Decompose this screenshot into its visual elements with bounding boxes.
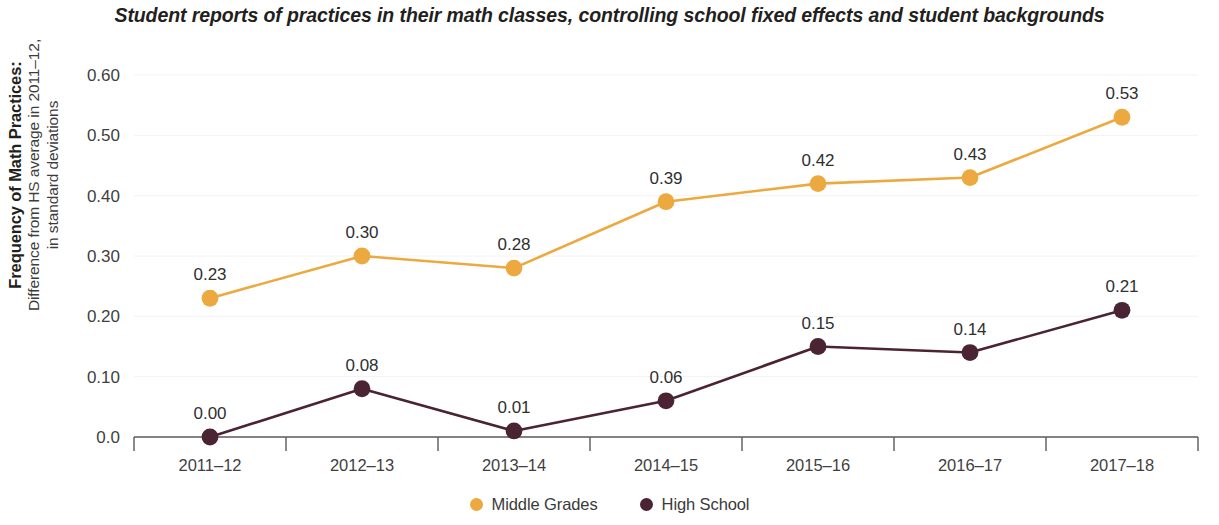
y-axis-tick-labels: 0.00.100.200.300.400.500.60 [87, 66, 120, 447]
x-axis-tick-label: 2012–13 [330, 456, 394, 474]
x-axis-tick-label: 2015–16 [786, 456, 850, 474]
data-point-marker[interactable] [354, 248, 371, 265]
y-axis-tick-label: 0.10 [87, 368, 120, 387]
data-point-marker[interactable] [1114, 109, 1131, 126]
x-axis-tick-label: 2016–17 [938, 456, 1002, 474]
data-point-label: 0.08 [345, 356, 378, 375]
data-point-marker[interactable] [1114, 302, 1131, 319]
data-point-marker[interactable] [202, 290, 219, 307]
data-point-label: 0.21 [1105, 277, 1138, 296]
legend-item[interactable]: Middle Grades [470, 495, 598, 514]
y-axis-tick-label: 0.40 [87, 187, 120, 206]
y-axis-tick-label: 0.50 [87, 126, 120, 145]
data-point-marker[interactable] [962, 169, 979, 186]
data-point-label: 0.39 [649, 169, 682, 188]
y-axis-tick-label: 0.0 [96, 428, 120, 447]
x-axis-tick-label: 2013–14 [482, 456, 546, 474]
data-point-marker[interactable] [962, 344, 979, 361]
x-axis-tick-label: 2017–18 [1090, 456, 1154, 474]
x-axis-tick-label: 2011–12 [178, 456, 241, 474]
data-point-label: 0.28 [497, 235, 530, 254]
chart-legend: Middle GradesHigh School [0, 495, 1219, 514]
data-point-label: 0.30 [345, 223, 378, 242]
data-point-marker[interactable] [506, 423, 523, 440]
y-axis-tick-label: 0.60 [87, 66, 120, 85]
data-point-marker[interactable] [658, 392, 675, 409]
legend-item[interactable]: High School [640, 495, 750, 514]
data-series [202, 109, 1131, 446]
line-chart-plot: 0.00.100.200.300.400.500.60 2011–122012–… [0, 0, 1219, 500]
data-point-label: 0.00 [193, 404, 226, 423]
data-point-marker[interactable] [810, 338, 827, 355]
legend-label: Middle Grades [492, 495, 598, 514]
x-axis-tick-label: 2014–15 [634, 456, 698, 474]
data-point-marker[interactable] [810, 175, 827, 192]
legend-swatch-icon [470, 498, 483, 511]
y-axis-tick-label: 0.30 [87, 247, 120, 266]
gridlines [134, 75, 1198, 377]
data-point-label: 0.01 [497, 398, 530, 417]
data-point-label: 0.14 [953, 320, 986, 339]
chart-page: Student reports of practices in their ma… [0, 0, 1219, 525]
axis-lines [134, 437, 1198, 451]
data-point-label: 0.06 [649, 368, 682, 387]
x-axis-tick-labels: 2011–122012–132013–142014–152015–162016–… [178, 456, 1154, 474]
data-point-label: 0.53 [1105, 84, 1138, 103]
data-point-label: 0.43 [953, 145, 986, 164]
data-point-label: 0.42 [801, 151, 834, 170]
data-point-marker[interactable] [354, 380, 371, 397]
data-point-label: 0.15 [801, 314, 834, 333]
legend-label: High School [662, 495, 750, 514]
data-point-marker[interactable] [202, 429, 219, 446]
data-point-label: 0.23 [193, 265, 226, 284]
data-point-marker[interactable] [506, 260, 523, 277]
y-axis-tick-label: 0.20 [87, 307, 120, 326]
data-point-marker[interactable] [658, 193, 675, 210]
legend-swatch-icon [640, 498, 653, 511]
